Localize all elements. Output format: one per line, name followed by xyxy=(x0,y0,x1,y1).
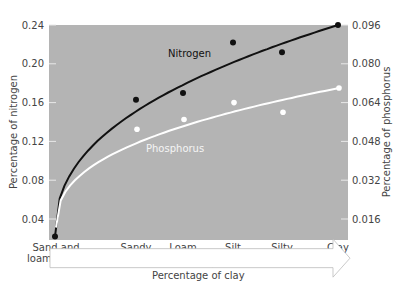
nitrogen-point xyxy=(133,97,139,103)
y-tick-right-label: 0.096 xyxy=(352,20,381,31)
phosphorus-point xyxy=(181,117,187,123)
x-axis-label: Percentage of clay xyxy=(152,270,245,281)
y-axis-left-label: Percentage of nitrogen xyxy=(8,75,19,189)
y-tick-label: 0.16 xyxy=(22,97,44,108)
nitrogen-point xyxy=(279,49,285,55)
nitrogen-point xyxy=(230,39,236,45)
y-tick-right-label: 0.016 xyxy=(352,214,381,225)
nitrogen-point xyxy=(52,233,58,239)
y-tick-right-label: 0.080 xyxy=(352,58,381,69)
phosphorus-point xyxy=(231,100,237,106)
y-tick-right-label: 0.048 xyxy=(352,136,381,147)
y-tick-label: 0.04 xyxy=(22,214,44,225)
y-tick-right-label: 0.064 xyxy=(352,97,381,108)
y-tick-label: 0.12 xyxy=(22,136,44,147)
y-tick-label: 0.20 xyxy=(22,58,44,69)
phosphorus-label: Phosphorus xyxy=(146,143,204,154)
chart: 0.040.080.120.160.200.24 0.0160.0320.048… xyxy=(0,0,402,297)
nitrogen-point xyxy=(335,22,341,28)
y-tick-right-label: 0.032 xyxy=(352,175,381,186)
y-tick-label: 0.24 xyxy=(22,20,44,31)
y-tick-label: 0.08 xyxy=(22,175,44,186)
phosphorus-point xyxy=(134,126,140,132)
y-axis-right-label: Percentage of phosphorus xyxy=(381,67,392,198)
phosphorus-point xyxy=(280,110,286,116)
nitrogen-label: Nitrogen xyxy=(168,48,211,59)
nitrogen-point xyxy=(180,90,186,96)
phosphorus-point xyxy=(336,85,342,91)
